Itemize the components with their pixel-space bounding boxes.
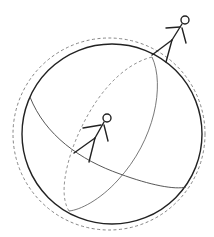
sphere-diagram — [0, 0, 214, 237]
sphere-outline — [22, 44, 202, 224]
stick-figure-top — [152, 16, 189, 62]
great-circle-back-2 — [64, 57, 152, 211]
great-circle-front-1 — [30, 97, 186, 188]
outer-dashed-circle — [13, 38, 205, 230]
great-circle-front-2 — [69, 57, 157, 211]
